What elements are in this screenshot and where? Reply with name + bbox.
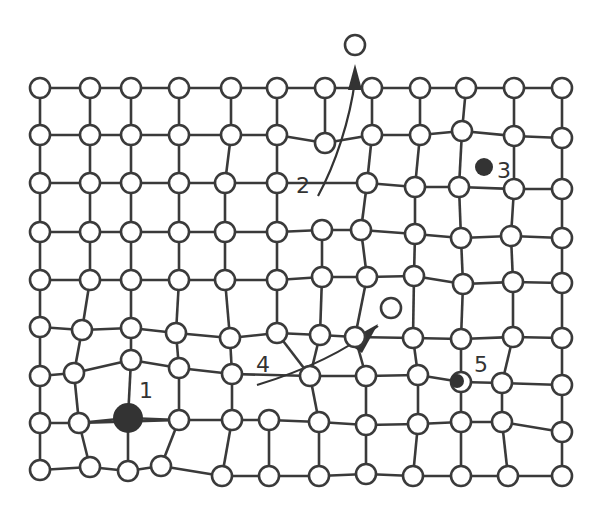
large-substitutional-atom <box>113 403 143 433</box>
lattice-atom <box>169 222 189 242</box>
lattice-atom <box>215 173 235 193</box>
lattice-atom <box>169 410 189 430</box>
lattice-atom <box>312 267 332 287</box>
lattice-atom <box>552 78 572 98</box>
lattice-atom <box>169 78 189 98</box>
lattice-atom <box>169 270 189 290</box>
lattice-atom <box>351 220 371 240</box>
lattice-atom <box>449 177 469 197</box>
lattice-atom <box>309 466 329 486</box>
lattice-atom <box>451 228 471 248</box>
lattice-diagram: 1 2 3 4 5 <box>0 0 606 521</box>
lattice-atom <box>30 173 50 193</box>
lattice-atom <box>221 125 241 145</box>
lattice-atom <box>552 228 572 248</box>
lattice-atom <box>72 320 92 340</box>
lattice-atom <box>403 466 423 486</box>
lattice-atom <box>220 328 240 348</box>
lattice-atom <box>552 422 572 442</box>
lattice-atom <box>30 460 50 480</box>
lattice-atom <box>552 179 572 199</box>
lattice-atom <box>345 327 365 347</box>
lattice-atom <box>405 177 425 197</box>
lattice-atom <box>451 329 471 349</box>
label-1: 1 <box>139 378 153 403</box>
lattice-atom <box>80 173 100 193</box>
lattice-atom <box>410 78 430 98</box>
label-4: 4 <box>256 352 270 377</box>
lattice-atom <box>315 133 335 153</box>
lattice-atom <box>552 273 572 293</box>
lattice-atom <box>552 466 572 486</box>
lattice-atom <box>30 222 50 242</box>
lattice-atom <box>121 125 141 145</box>
lattice-atom <box>215 270 235 290</box>
lattice-atom <box>30 366 50 386</box>
lattice-atom <box>80 78 100 98</box>
lattice-atom <box>410 125 430 145</box>
lattice-atom <box>405 224 425 244</box>
lattice-atom <box>408 414 428 434</box>
lattice-atom <box>222 410 242 430</box>
lattice-atom <box>315 78 335 98</box>
lattice-atom <box>80 457 100 477</box>
lattice-atom <box>151 456 171 476</box>
lattice-atom <box>30 270 50 290</box>
lattice-atom <box>259 410 279 430</box>
lattice-atom <box>30 78 50 98</box>
lattice-atom <box>212 466 232 486</box>
lattice-atom <box>259 466 279 486</box>
lattice-atom <box>451 466 471 486</box>
lattice-atom <box>504 78 524 98</box>
lattice-atom <box>453 274 473 294</box>
lattice-atom <box>492 412 512 432</box>
lattice-atom <box>451 412 471 432</box>
lattice-atom <box>121 318 141 338</box>
lattice-atom <box>356 366 376 386</box>
lattice-atom <box>362 78 382 98</box>
interstitial-atom-top <box>345 35 365 55</box>
lattice-atom <box>504 126 524 146</box>
lattice-atom <box>267 323 287 343</box>
lattice-atom <box>121 350 141 370</box>
lattice-atom <box>118 461 138 481</box>
lattice-atom <box>456 78 476 98</box>
lattice-atom <box>121 173 141 193</box>
lattice-atom <box>362 125 382 145</box>
lattice-atom <box>498 466 518 486</box>
lattice-atom <box>222 364 242 384</box>
small-interstitial-atom <box>475 158 493 176</box>
lattice-atom <box>267 78 287 98</box>
lattice-atom <box>267 125 287 145</box>
bond <box>232 374 310 376</box>
lattice-atom <box>357 173 377 193</box>
lattice-atom <box>30 413 50 433</box>
lattice-atom <box>30 125 50 145</box>
lattice-atom <box>80 222 100 242</box>
lattice-atom <box>404 266 424 286</box>
lattice-atom <box>310 325 330 345</box>
lattice-atom <box>408 365 428 385</box>
lattice-atom <box>30 317 50 337</box>
label-5: 5 <box>474 352 488 377</box>
lattice-atom <box>552 128 572 148</box>
lattice-atom <box>357 267 377 287</box>
lattice-atom <box>169 358 189 378</box>
label-2: 2 <box>296 173 310 198</box>
arrowhead-2-icon <box>348 64 362 90</box>
lattice-atom <box>64 363 84 383</box>
lattice-atom <box>552 328 572 348</box>
lattice-atom <box>80 270 100 290</box>
label-3: 3 <box>497 158 511 183</box>
lattice-atom <box>121 270 141 290</box>
lattice-atom <box>169 173 189 193</box>
lattice-atom <box>267 222 287 242</box>
small-substitutional-atom <box>450 374 464 388</box>
lattice-atom <box>215 222 235 242</box>
lattice-atom <box>121 78 141 98</box>
lattice-atom <box>267 270 287 290</box>
lattice-atom <box>300 366 320 386</box>
lattice-atom <box>121 222 141 242</box>
lattice-atom <box>356 464 376 484</box>
lattice-atom <box>501 226 521 246</box>
